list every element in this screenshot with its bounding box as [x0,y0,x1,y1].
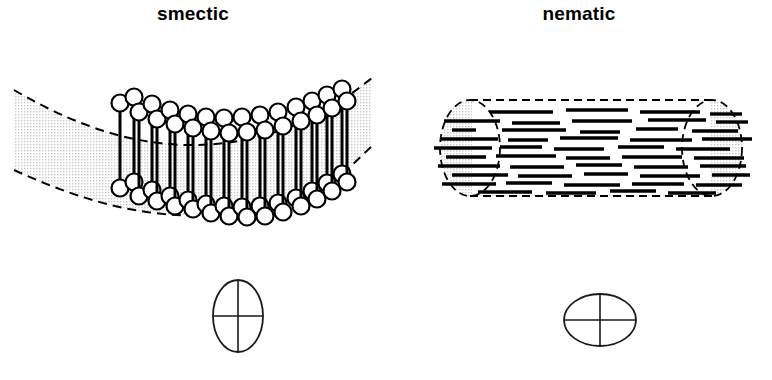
molecule-head [275,118,292,135]
molecule-head [239,124,256,141]
figure-artwork [0,0,772,380]
nematic-phase-symbol [564,294,636,346]
molecule-tail [257,208,274,225]
molecule-head [203,123,220,140]
molecule-tail [339,174,356,191]
liquid-crystal-phases-figure: smectic nematic [0,0,772,380]
phase-symbols [213,280,636,352]
molecule-head [257,122,274,139]
nematic-diagram [434,100,752,196]
molecule-tail [275,204,292,221]
molecule-tail [293,198,310,215]
smectic-diagram [14,78,372,226]
smectic-phase-symbol [213,280,263,352]
molecule-head [293,113,310,130]
molecule-head [339,93,356,110]
molecule-head [221,125,238,142]
